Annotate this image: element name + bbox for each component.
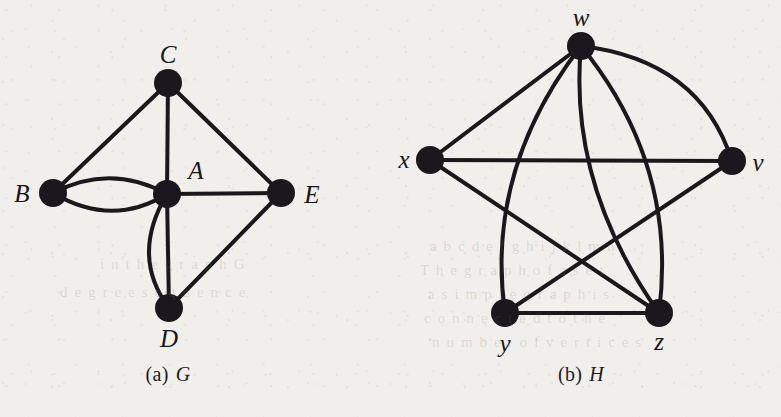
vertex-label-y: y: [499, 331, 510, 356]
vertex-label-E: E: [304, 182, 319, 207]
graph-g-canvas: [0, 0, 390, 417]
vertex-y[interactable]: [491, 299, 519, 327]
edge-x-v: [430, 160, 732, 161]
edge-w-z-inner: [579, 46, 659, 313]
vertex-label-x: x: [398, 147, 409, 172]
vertex-label-z: z: [654, 329, 664, 354]
edge-B-A-upper: [53, 178, 167, 194]
vertex-w[interactable]: [567, 32, 595, 60]
vertex-B[interactable]: [39, 179, 67, 207]
edge-A-D-straight: [167, 194, 169, 308]
graph-h-canvas: [390, 0, 781, 417]
edge-w-y: [502, 46, 581, 313]
edge-w-x: [430, 46, 581, 160]
caption-panel-b: (b)H: [558, 363, 604, 386]
vertex-label-A: A: [188, 158, 203, 183]
vertex-C[interactable]: [154, 69, 182, 97]
edge-w-v: [581, 46, 732, 161]
edge-B-A-lower: [53, 193, 167, 211]
vertex-E[interactable]: [267, 179, 295, 207]
figure-panel-g: A B C D E (a)G: [0, 0, 390, 417]
caption-panel-a: (a)G: [146, 363, 191, 386]
caption-letter-g: G: [176, 363, 191, 385]
edge-C-A: [167, 83, 168, 194]
edge-x-z: [430, 160, 659, 313]
vertex-label-w: w: [573, 5, 590, 30]
graph-h-edges: [430, 46, 732, 313]
vertex-z[interactable]: [645, 299, 673, 327]
vertex-D[interactable]: [155, 294, 183, 322]
vertex-label-B: B: [14, 181, 29, 206]
caption-index-b: (b): [558, 363, 582, 385]
vertex-x[interactable]: [416, 146, 444, 174]
vertex-v[interactable]: [718, 147, 746, 175]
vertex-A[interactable]: [153, 180, 181, 208]
figure-panel-h: w x v y z (b)H: [390, 0, 781, 417]
vertex-label-C: C: [160, 42, 177, 67]
edge-y-v: [505, 161, 732, 313]
vertex-label-v: v: [752, 150, 763, 175]
figure-page: A B C D E (a)G: [0, 0, 781, 417]
edge-C-E: [168, 83, 281, 193]
edge-A-E: [167, 193, 281, 194]
edge-D-E: [169, 193, 281, 308]
vertex-label-D: D: [160, 326, 178, 351]
caption-index-a: (a): [146, 363, 169, 385]
caption-letter-h: H: [589, 363, 604, 385]
